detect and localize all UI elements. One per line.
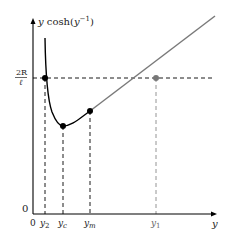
curve-black-segment	[45, 38, 90, 126]
x-tick-zero: 0	[30, 218, 36, 228]
svg-text:ℓ: ℓ	[19, 78, 23, 87]
point-ym	[87, 108, 93, 114]
x-tick-y1: y1	[150, 218, 161, 230]
x-axis-arrow-icon	[211, 212, 217, 217]
axes	[33, 22, 213, 214]
x-tick-y2: y2	[39, 218, 50, 230]
y-axis-label: y cosh(y−1)	[37, 15, 94, 27]
dashed-guides	[33, 78, 215, 214]
point-y2	[42, 75, 48, 81]
x-axis-label: y	[211, 218, 218, 229]
y-tick-2R-over-l: 2R ℓ	[15, 68, 28, 87]
svg-text:2R: 2R	[16, 68, 28, 77]
point-yc-minimum	[60, 123, 66, 129]
x-tick-ym: ym	[83, 218, 96, 230]
x-tick-yc: yc	[57, 218, 67, 230]
y-axis-arrow-icon	[31, 18, 36, 24]
y-tick-zero: 0	[22, 203, 28, 214]
point-y1	[153, 75, 159, 81]
figure-canvas: y cosh(y−1) 2R ℓ 0 0 y2 yc ym y1 y	[0, 0, 235, 231]
curve-gray-segment	[90, 16, 215, 111]
